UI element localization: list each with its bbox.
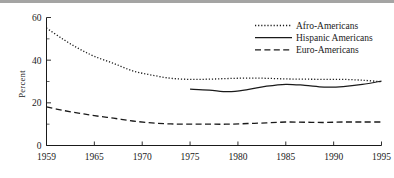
legend-label: Afro-Americans: [296, 21, 359, 31]
y-tick-label: 60: [32, 13, 42, 23]
x-tick-label: 1965: [85, 152, 104, 162]
chart-canvas: 0204060 19591965197019751980198519901995…: [0, 0, 394, 178]
y-tick-label: 20: [32, 98, 42, 108]
x-axis-ticks: [47, 142, 382, 146]
x-tick-label: 1985: [276, 152, 295, 162]
x-tick-label: 1980: [228, 152, 247, 162]
x-tick-label: 1995: [372, 152, 391, 162]
x-tick-label: 1970: [133, 152, 152, 162]
x-tick-label: 1959: [37, 152, 56, 162]
y-tick-label: 0: [37, 141, 42, 151]
y-axis-title: Percent: [17, 70, 27, 98]
x-tick-label: 1975: [181, 152, 200, 162]
line-chart: 0204060 19591965197019751980198519901995…: [0, 0, 394, 178]
x-tick-label: 1990: [324, 152, 343, 162]
legend-label: Hispanic Americans: [296, 33, 373, 43]
series-line-euro-americans: [47, 107, 382, 124]
y-axis-tick-labels: 0204060: [32, 13, 42, 151]
y-tick-label: 40: [32, 56, 42, 66]
legend-label: Euro-Americans: [296, 45, 359, 55]
chart-legend: Afro-AmericansHispanic AmericansEuro-Ame…: [255, 21, 373, 55]
x-axis-tick-labels: 19591965197019751980198519901995: [37, 152, 391, 162]
series-line-hispanic-americans: [190, 81, 381, 92]
